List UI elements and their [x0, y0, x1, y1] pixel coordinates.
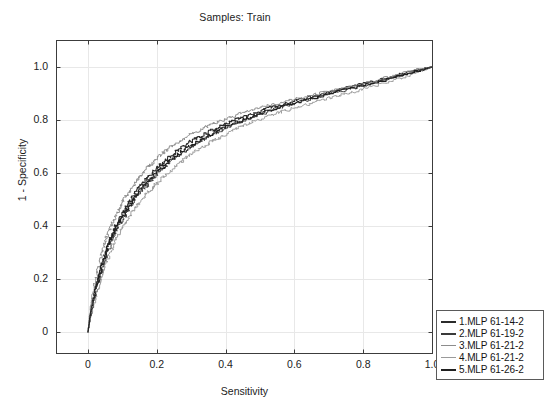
x-tick-label: 0.6: [274, 358, 314, 370]
y-tick-label: 0.8: [8, 113, 48, 125]
legend-item[interactable]: 3.MLP 61-21-2: [440, 339, 539, 351]
x-tick-label: 0.4: [206, 358, 246, 370]
y-tick-label: 0.2: [8, 272, 48, 284]
roc-chart-figure: Samples: Train 00.20.40.60.81.0 00.20.40…: [0, 0, 549, 413]
legend: 1.MLP 61-14-22.MLP 61-19-23.MLP 61-21-24…: [436, 310, 544, 380]
legend-line-swatch: [440, 328, 457, 338]
legend-line-swatch: [440, 340, 457, 350]
plot-frame: [57, 41, 433, 354]
roc-curves: [88, 67, 432, 332]
x-tick-label: 0: [68, 358, 108, 370]
axis-ticks: [57, 41, 433, 354]
legend-line-swatch: [440, 352, 457, 362]
x-tick-label: 0.8: [343, 358, 383, 370]
legend-item-label: 2.MLP 61-19-2: [457, 328, 524, 339]
roc-curve: [88, 67, 432, 332]
x-axis-title: Sensitivity: [56, 385, 433, 397]
y-tick-label: 1.0: [8, 60, 48, 72]
y-axis-title: 1 - Specificity: [16, 120, 28, 220]
legend-item-label: 5.MLP 61-26-2: [457, 364, 524, 375]
legend-line-swatch: [440, 364, 457, 374]
legend-item-label: 1.MLP 61-14-2: [457, 316, 524, 327]
legend-item[interactable]: 5.MLP 61-26-2: [440, 363, 539, 375]
legend-item[interactable]: 2.MLP 61-19-2: [440, 327, 539, 339]
legend-item-label: 3.MLP 61-21-2: [457, 340, 524, 351]
legend-item[interactable]: 1.MLP 61-14-2: [440, 315, 539, 327]
y-tick-label: 0.4: [8, 219, 48, 231]
y-tick-label: 0: [8, 325, 48, 337]
x-tick-label: 0.2: [137, 358, 177, 370]
legend-item[interactable]: 4.MLP 61-21-2: [440, 351, 539, 363]
gridlines: [57, 41, 433, 354]
legend-item-label: 4.MLP 61-21-2: [457, 352, 524, 363]
legend-line-swatch: [440, 316, 457, 326]
y-tick-label: 0.6: [8, 166, 48, 178]
